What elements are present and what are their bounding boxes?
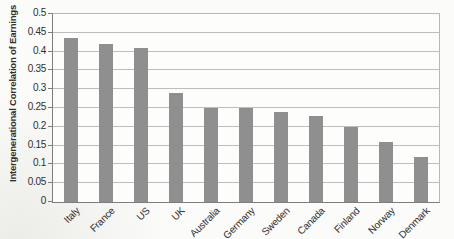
y-tick-label: 0.4 (0, 45, 46, 57)
bar-us (134, 48, 148, 202)
y-tick-mark (48, 126, 52, 127)
bar-france (99, 44, 113, 202)
y-tick-mark (48, 145, 52, 146)
y-tick-label: 0.15 (0, 139, 46, 151)
bar-norway (379, 142, 393, 202)
y-tick-mark (48, 107, 52, 108)
y-tick-label: 0.35 (0, 63, 46, 75)
bar-italy (64, 38, 78, 202)
y-tick-mark (48, 88, 52, 89)
y-tick-mark (48, 13, 52, 14)
y-tick-mark (48, 182, 52, 183)
y-tick-label: 0.1 (0, 157, 46, 169)
y-tick-label: 0.3 (0, 82, 46, 94)
y-tick-label: 0 (0, 195, 46, 207)
y-tick-mark (48, 201, 52, 202)
bar-australia (204, 108, 218, 202)
y-tick-mark (48, 32, 52, 33)
plot-area (52, 13, 440, 203)
bar-canada (309, 116, 323, 202)
y-tick-label: 0.25 (0, 101, 46, 113)
bar-finland (344, 127, 358, 202)
y-tick-label: 0.05 (0, 176, 46, 188)
bar-sweden (274, 112, 288, 202)
y-tick-label: 0.5 (0, 7, 46, 19)
y-tick-mark (48, 163, 52, 164)
x-label-italy: Italy (17, 205, 81, 239)
bar-germany (239, 108, 253, 202)
bar-denmark (414, 157, 428, 202)
gridline (53, 32, 439, 33)
bar-chart-figure: Intergenerational Correlation of Earning… (0, 0, 454, 239)
y-tick-label: 0.2 (0, 120, 46, 132)
bar-uk (169, 93, 183, 202)
y-tick-label: 0.45 (0, 26, 46, 38)
y-tick-mark (48, 51, 52, 52)
y-tick-mark (48, 69, 52, 70)
